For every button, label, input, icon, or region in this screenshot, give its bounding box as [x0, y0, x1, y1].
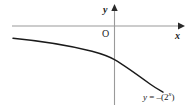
y-axis-arrowhead [111, 4, 117, 11]
y-axis-label: y [103, 5, 107, 15]
origin-label: O [102, 29, 109, 39]
equation-annotation: y = –(2x) [143, 93, 174, 102]
exponential-function-graph: y x O y = –(2x) [0, 0, 196, 111]
exponential-curve [13, 38, 163, 92]
x-axis-label: x [175, 31, 180, 41]
equation-sign: –( [157, 92, 165, 102]
x-axis-arrowhead [178, 23, 185, 30]
equation-close-paren: ) [171, 92, 174, 102]
